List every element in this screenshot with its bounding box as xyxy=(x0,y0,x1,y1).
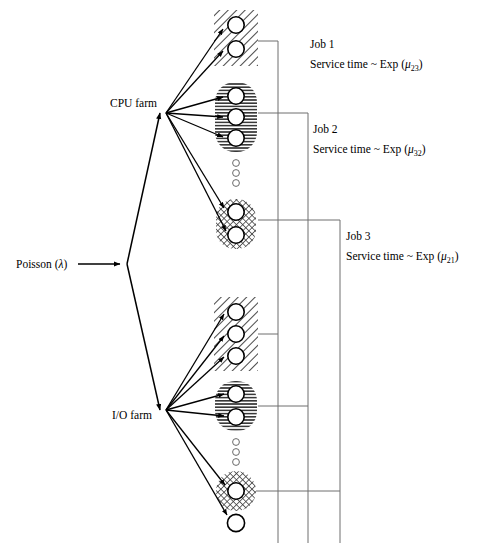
server-node xyxy=(228,409,244,425)
job1-mu-subscript: 23 xyxy=(411,64,419,73)
job3-title: Job 3 xyxy=(346,230,371,242)
diagram-canvas: Poisson (λ) CPU farm I/O farm Job 1 Serv… xyxy=(0,0,492,544)
server-node xyxy=(228,326,244,342)
server-node xyxy=(228,227,244,243)
server-node xyxy=(228,88,244,104)
queueing-network-diagram: Poisson (λ) CPU farm I/O farm Job 1 Serv… xyxy=(0,0,492,544)
poisson-source-label: Poisson (λ) xyxy=(16,258,67,271)
server-node xyxy=(227,514,244,531)
ellipsis-dot xyxy=(233,449,240,456)
poisson-prefix: Poisson ( xyxy=(16,258,59,271)
io-ellipsis xyxy=(233,439,240,466)
server-node xyxy=(228,130,244,146)
job1-service-prefix: Service time ~ Exp ( xyxy=(310,58,405,71)
server-node xyxy=(228,386,244,402)
io-tail-server xyxy=(227,514,244,531)
server-node xyxy=(228,41,244,57)
io-cluster-job3 xyxy=(216,471,256,511)
job1-service-suffix: ) xyxy=(419,58,423,71)
ellipsis-dot xyxy=(233,180,240,187)
ellipsis-dot xyxy=(233,160,240,167)
ellipsis-dot xyxy=(233,439,240,446)
ellipsis-dot xyxy=(233,170,240,177)
job2-service-suffix: ) xyxy=(422,143,426,156)
io-cluster-job2 xyxy=(215,381,257,431)
job2-service-prefix: Service time ~ Exp ( xyxy=(313,143,408,156)
server-node xyxy=(228,109,244,125)
job3-mu-subscript: 21 xyxy=(447,256,455,265)
job1-title: Job 1 xyxy=(310,38,335,50)
poisson-suffix: ) xyxy=(63,258,67,271)
canvas-background xyxy=(0,0,492,544)
server-node xyxy=(228,17,244,33)
server-node xyxy=(228,348,244,364)
server-node xyxy=(228,483,244,499)
cpu-cluster-job1 xyxy=(214,10,258,66)
server-node xyxy=(228,204,244,220)
io-farm-label: I/O farm xyxy=(112,409,152,421)
job2-title: Job 2 xyxy=(313,123,338,135)
cpu-ellipsis xyxy=(233,160,240,187)
ellipsis-dot xyxy=(233,459,240,466)
server-node xyxy=(228,304,244,320)
cpu-farm-label: CPU farm xyxy=(110,97,157,109)
job3-service-prefix: Service time ~ Exp ( xyxy=(346,250,441,263)
job3-service-suffix: ) xyxy=(455,250,459,263)
job2-mu-subscript: 32 xyxy=(414,149,422,158)
